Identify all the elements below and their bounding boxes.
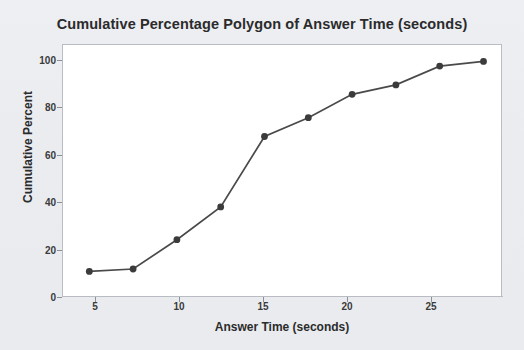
data-point — [393, 82, 400, 89]
data-point — [261, 133, 268, 140]
x-tick-label-15: 15 — [243, 301, 283, 312]
y-tick-label-0: 0 — [28, 292, 56, 303]
y-tick-label-100: 100 — [28, 55, 56, 66]
data-point — [86, 268, 93, 275]
data-point — [305, 114, 312, 121]
chart-figure: Cumulative Percentage Polygon of Answer … — [0, 0, 524, 350]
y-tick-label-20: 20 — [28, 244, 56, 255]
cumulative-percent-line — [89, 61, 483, 271]
x-tick-label-5: 5 — [75, 301, 115, 312]
chart-title: Cumulative Percentage Polygon of Answer … — [0, 16, 524, 32]
plot-area — [62, 44, 502, 297]
data-point — [174, 236, 181, 243]
data-point — [436, 63, 443, 70]
y-tick-mark-0 — [57, 297, 62, 298]
y-tick-label-60: 60 — [28, 149, 56, 160]
cumulative-percent-markers — [86, 58, 487, 275]
data-point — [217, 204, 224, 211]
y-tick-label-80: 80 — [28, 102, 56, 113]
x-tick-label-10: 10 — [159, 301, 199, 312]
x-tick-label-20: 20 — [327, 301, 367, 312]
x-axis-line — [62, 296, 503, 297]
x-tick-label-25: 25 — [411, 301, 451, 312]
data-point — [130, 266, 137, 273]
data-series-polygon — [63, 45, 501, 296]
y-axis-tick-labels: 0 20 40 60 80 100 — [24, 0, 56, 350]
data-point — [349, 91, 356, 98]
y-tick-label-40: 40 — [28, 197, 56, 208]
data-point — [480, 58, 487, 65]
x-axis-title: Answer Time (seconds) — [62, 320, 502, 334]
